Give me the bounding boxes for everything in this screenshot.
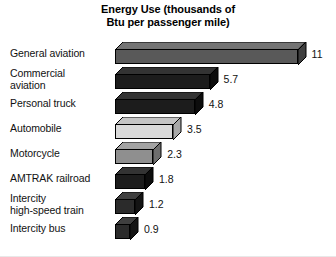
bar-motorcycle: [115, 142, 161, 161]
category-label-line: Intercity: [10, 192, 84, 204]
bar-side-face: [135, 192, 143, 208]
bar-front-face: [115, 99, 195, 114]
bar-side-face: [195, 92, 203, 108]
bar-front-face: [115, 174, 145, 189]
bar-side-face: [153, 142, 161, 158]
bar-front-face: [115, 124, 173, 139]
bar-side-face: [130, 217, 138, 233]
category-label: General aviation: [10, 47, 85, 59]
bar-row: Intercityhigh-speed train1.2: [0, 190, 336, 215]
value-label: 2.3: [167, 148, 182, 160]
bar-front-face: [115, 199, 135, 214]
bar-general-aviation: [115, 42, 306, 61]
category-label-line: Motorcycle: [10, 147, 60, 159]
bar-row: General aviation11: [0, 40, 336, 65]
value-label: 4.8: [209, 98, 224, 110]
bar-row: AMTRAK railroad1.8: [0, 165, 336, 190]
category-label-line: General aviation: [10, 47, 85, 59]
bar-side-face: [173, 117, 181, 133]
category-label: AMTRAK railroad: [10, 172, 90, 184]
bar-row: Intercity bus0.9: [0, 215, 336, 240]
bar-commercial-aviation: [115, 67, 218, 86]
category-label-line: Personal truck: [10, 97, 76, 109]
category-label-line: Automobile: [10, 122, 62, 134]
energy-use-bar-chart: Energy Use (thousands of Btu per passeng…: [0, 0, 336, 257]
bar-front-face: [115, 224, 130, 239]
bar-side-face: [145, 167, 153, 183]
chart-title-line-1: Energy Use (thousands of: [0, 3, 336, 16]
bar-row: Motorcycle2.3: [0, 140, 336, 165]
bar-amtrak-railroad: [115, 167, 153, 186]
bar-row: Commercialaviation5.7: [0, 65, 336, 90]
bar-automobile: [115, 117, 181, 136]
category-label: Motorcycle: [10, 147, 60, 159]
category-label-line: Commercial: [10, 67, 65, 79]
chart-title-line-2: Btu per passenger mile): [0, 16, 336, 29]
value-label: 1.8: [159, 173, 174, 185]
value-label: 5.7: [224, 73, 239, 85]
category-label-line: AMTRAK railroad: [10, 172, 90, 184]
bar-row: Personal truck4.8: [0, 90, 336, 115]
bar-side-face: [210, 67, 218, 83]
category-label-line: Intercity bus: [10, 222, 65, 234]
bar-side-face: [298, 42, 306, 58]
bar-intercity-high-speed-train: [115, 192, 143, 211]
value-label: 1.2: [149, 198, 164, 210]
category-label: Intercityhigh-speed train: [10, 192, 84, 216]
value-label: 0.9: [144, 223, 159, 235]
category-label: Commercialaviation: [10, 67, 65, 91]
bar-row: Automobile3.5: [0, 115, 336, 140]
category-label: Intercity bus: [10, 222, 65, 234]
chart-title: Energy Use (thousands of Btu per passeng…: [0, 3, 336, 29]
bar-front-face: [115, 149, 153, 164]
category-label: Automobile: [10, 122, 62, 134]
value-label: 11: [312, 48, 323, 60]
category-label: Personal truck: [10, 97, 76, 109]
bar-front-face: [115, 74, 210, 89]
bar-personal-truck: [115, 92, 203, 111]
bar-front-face: [115, 49, 298, 64]
value-label: 3.5: [187, 123, 202, 135]
plot-area: General aviation11Commercialaviation5.7P…: [0, 40, 336, 250]
bar-intercity-bus: [115, 217, 138, 236]
